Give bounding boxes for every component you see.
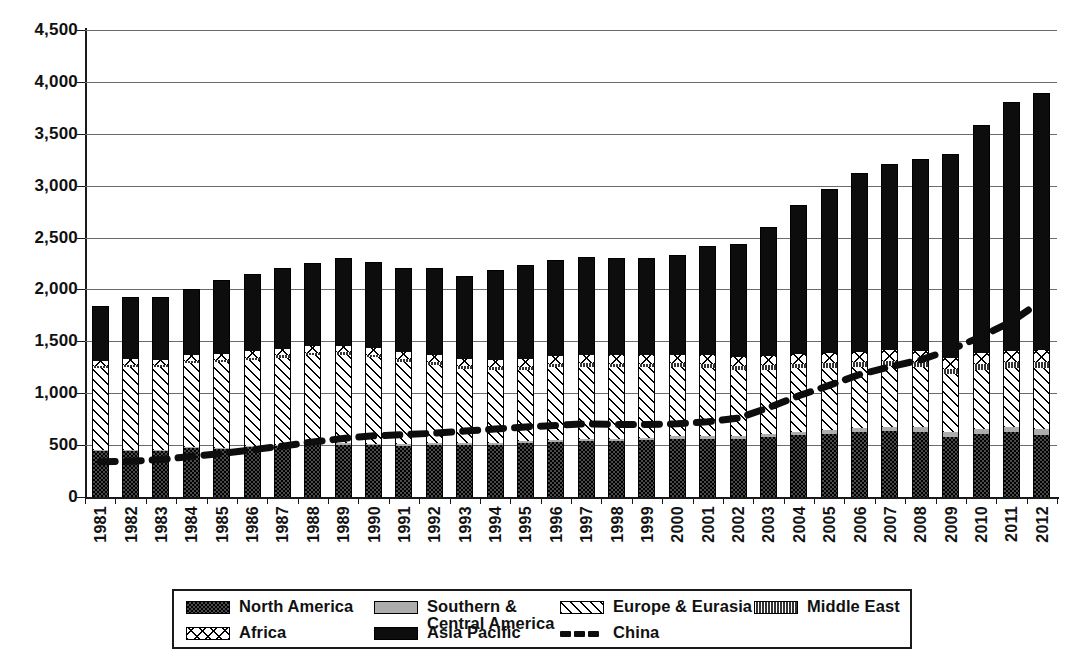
y-axis-tick-label: 3,000 <box>34 176 78 196</box>
x-axis-tick-label: 1995 <box>517 506 535 543</box>
x-axis-tick <box>844 497 845 504</box>
x-axis-tick <box>115 497 116 504</box>
legend-item-asia-pacific: Asia Pacific <box>374 624 521 641</box>
x-axis-tick-label: 2012 <box>1034 506 1052 543</box>
x-axis-tick <box>662 497 663 504</box>
southern-central-america-swatch-icon <box>374 601 418 614</box>
y-axis-labels: 05001,0001,5002,0002,5003,0003,5004,0004… <box>0 30 78 497</box>
x-axis-tick-label: 2010 <box>973 506 991 543</box>
x-axis-tick <box>480 497 481 504</box>
x-axis-tick-label: 2002 <box>730 506 748 543</box>
x-axis-tick <box>784 497 785 504</box>
x-axis-tick-label: 2006 <box>852 506 870 543</box>
x-axis-tick-label: 2000 <box>669 506 687 543</box>
x-axis-tick <box>1057 497 1058 504</box>
x-axis-tick <box>996 497 997 504</box>
x-axis-tick <box>389 497 390 504</box>
europe-eurasia-swatch-icon <box>560 601 604 614</box>
y-axis-tick <box>77 341 85 342</box>
x-axis-tick <box>298 497 299 504</box>
y-axis-tick <box>77 82 85 83</box>
china-dashed-line-icon <box>560 627 604 640</box>
china-line-series <box>85 30 1057 497</box>
y-axis-tick-label: 4,500 <box>34 20 78 40</box>
x-axis-tick <box>1027 497 1028 504</box>
plot-area <box>85 30 1057 497</box>
legend-label-middle-east: Middle East <box>807 598 900 615</box>
legend-label-africa: Africa <box>239 624 286 641</box>
x-axis-tick-label: 1985 <box>214 506 232 543</box>
x-axis-tick <box>176 497 177 504</box>
x-axis-tick-label: 2009 <box>943 506 961 543</box>
y-axis-tick <box>77 238 85 239</box>
y-axis-tick <box>77 393 85 394</box>
x-axis-tick-label: 1994 <box>487 506 505 543</box>
china-line-path <box>100 301 1042 462</box>
y-axis-tick-label: 4,000 <box>34 72 78 92</box>
x-axis-tick <box>328 497 329 504</box>
x-axis-tick <box>85 497 86 504</box>
x-axis-tick-label: 1989 <box>335 506 353 543</box>
north-america-swatch-icon <box>186 601 230 614</box>
x-axis-tick <box>723 497 724 504</box>
africa-swatch-icon <box>186 627 230 640</box>
x-axis-tick-label: 1998 <box>609 506 627 543</box>
x-axis-tick <box>358 497 359 504</box>
x-axis-tick <box>237 497 238 504</box>
y-axis-tick-label: 2,500 <box>34 228 78 248</box>
x-axis-tick <box>693 497 694 504</box>
legend-label-asia-pacific: Asia Pacific <box>427 624 521 641</box>
x-axis-tick-label: 1992 <box>426 506 444 543</box>
x-axis-tick-label: 1988 <box>305 506 323 543</box>
y-axis-tick-label: 1,500 <box>34 331 78 351</box>
x-axis-tick-label: 1991 <box>396 506 414 543</box>
y-axis-tick <box>77 497 85 498</box>
x-axis-tick <box>267 497 268 504</box>
legend-label-sca-line1: Southern & <box>427 597 517 615</box>
chart-legend: North America Southern &Central America … <box>172 589 912 649</box>
x-axis-tick-label: 2005 <box>821 506 839 543</box>
x-axis-tick-label: 2007 <box>882 506 900 543</box>
x-axis-tick <box>207 497 208 504</box>
x-axis-tick-label: 1983 <box>153 506 171 543</box>
x-axis-tick <box>936 497 937 504</box>
chart-container: 05001,0001,5002,0002,5003,0003,5004,0004… <box>0 0 1079 667</box>
legend-label-north-america: North America <box>239 598 353 615</box>
x-axis-tick <box>419 497 420 504</box>
x-axis-tick <box>450 497 451 504</box>
x-axis-tick-label: 1981 <box>92 506 110 543</box>
x-axis-tick-label: 1987 <box>274 506 292 543</box>
x-axis-tick-label: 1996 <box>548 506 566 543</box>
x-axis-tick <box>571 497 572 504</box>
x-axis-tick-label: 1990 <box>366 506 384 543</box>
x-axis-tick-label: 1997 <box>578 506 596 543</box>
x-axis-tick <box>632 497 633 504</box>
x-axis-tick-label: 1986 <box>244 506 262 543</box>
x-axis-tick <box>510 497 511 504</box>
y-axis-tick-label: 3,500 <box>34 124 78 144</box>
x-axis-tick <box>146 497 147 504</box>
legend-label-europe-eurasia: Europe & Eurasia <box>613 598 752 615</box>
x-axis-tick-label: 2004 <box>791 506 809 543</box>
middle-east-swatch-icon <box>754 601 798 614</box>
x-axis-tick <box>966 497 967 504</box>
x-axis-tick <box>753 497 754 504</box>
y-axis-tick <box>77 186 85 187</box>
y-axis-tick-label: 500 <box>49 435 78 455</box>
x-axis-tick <box>601 497 602 504</box>
x-axis-tick <box>814 497 815 504</box>
x-axis-tick-label: 2011 <box>1003 506 1021 542</box>
y-axis-tick <box>77 30 85 31</box>
y-axis-tick-label: 2,000 <box>34 279 78 299</box>
x-axis-tick-label: 1993 <box>457 506 475 543</box>
x-axis-tick-label: 1984 <box>183 506 201 543</box>
x-axis-tick-label: 2001 <box>700 506 718 543</box>
y-axis-tick <box>77 289 85 290</box>
x-axis-tick-label: 2008 <box>912 506 930 543</box>
legend-item-africa: Africa <box>186 624 286 641</box>
legend-item-europe-eurasia: Europe & Eurasia <box>560 598 752 615</box>
legend-item-north-america: North America <box>186 598 353 615</box>
y-axis-tick-label: 1,000 <box>34 383 78 403</box>
x-axis-tick <box>541 497 542 504</box>
y-axis-tick <box>77 445 85 446</box>
